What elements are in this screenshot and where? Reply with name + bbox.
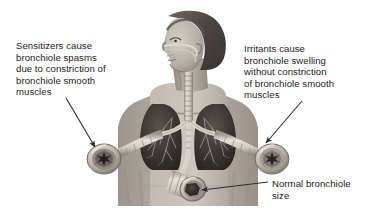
swollen-bronchiole — [255, 144, 289, 174]
leader-right — [266, 101, 302, 143]
caption-normal-size: Normal bronchiole size — [272, 178, 372, 201]
leader-left — [66, 98, 95, 147]
constricted-bronchiole — [87, 144, 121, 174]
asthma-bronchiole-diagram: Sensitizers cause bronchiole spasms due … — [0, 0, 376, 222]
caption-irritants: Irritants cause bronchiole swelling with… — [244, 43, 368, 101]
head-profile — [162, 11, 226, 72]
caption-sensitizers: Sensitizers cause bronchiole spasms due … — [16, 40, 134, 98]
